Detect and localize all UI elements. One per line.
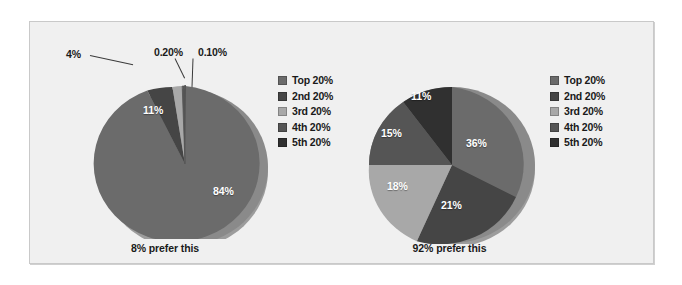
legend-swatch-5th20-left	[278, 138, 287, 147]
legend-label-4th20-right: 4th 20%	[564, 122, 602, 133]
legend-label-3rd20-right: 3rd 20%	[564, 106, 603, 117]
pie-chart-left: 4% 0.20% 0.10%	[30, 22, 342, 265]
legend-row-3rd20-right[interactable]: 3rd 20%	[550, 105, 605, 118]
pie-graphic-right	[356, 54, 556, 244]
legend-row-3rd20-left[interactable]: 3rd 20%	[278, 105, 333, 118]
pie-graphic-left	[68, 54, 303, 239]
legend-swatch-2nd20-left	[278, 92, 287, 101]
slice-label-4th20-right: 15%	[381, 127, 402, 139]
legend-label-top20-left: Top 20%	[292, 75, 333, 86]
legend-swatch-top20-right	[550, 76, 559, 85]
legend-row-4th20-left[interactable]: 4th 20%	[278, 121, 333, 134]
slice-label-top20-left: 84%	[213, 185, 234, 197]
pie-svg-right	[356, 54, 556, 244]
legend-row-top20-right[interactable]: Top 20%	[550, 74, 605, 87]
legend-label-5th20-right: 5th 20%	[564, 137, 602, 148]
legend-label-2nd20-left: 2nd 20%	[292, 91, 333, 102]
pie-svg-left	[68, 54, 303, 239]
legend-label-2nd20-right: 2nd 20%	[564, 91, 605, 102]
legend-swatch-2nd20-right	[550, 92, 559, 101]
legend-swatch-4th20-left	[278, 123, 287, 132]
legend-swatch-3rd20-left	[278, 107, 287, 116]
legend-row-5th20-left[interactable]: 5th 20%	[278, 136, 333, 149]
chart-panel: 4% 0.20% 0.10%	[29, 21, 654, 264]
legend-label-3rd20-left: 3rd 20%	[292, 106, 331, 117]
caption-left: 8% prefer this	[30, 242, 300, 254]
slice-label-2nd20-right: 21%	[441, 199, 462, 211]
legend-swatch-4th20-right	[550, 123, 559, 132]
legend-left: Top 20% 2nd 20% 3rd 20% 4th 20% 5th 20%	[278, 74, 333, 149]
slice-label-5th20-right: 11%	[411, 90, 431, 102]
legend-swatch-top20-left	[278, 76, 287, 85]
legend-swatch-5th20-right	[550, 138, 559, 147]
caption-right: 92% prefer this	[342, 242, 557, 254]
slice-label-top20-right: 36%	[466, 137, 487, 149]
legend-label-5th20-left: 5th 20%	[292, 137, 330, 148]
legend-row-2nd20-left[interactable]: 2nd 20%	[278, 90, 333, 103]
page-root: 4% 0.20% 0.10%	[0, 0, 682, 285]
legend-swatch-3rd20-right	[550, 107, 559, 116]
legend-row-2nd20-right[interactable]: 2nd 20%	[550, 90, 605, 103]
pie-chart-right: 36% 21% 18% 15% 11% Top 20% 2nd 20% 3rd …	[342, 22, 655, 265]
slice-label-2nd20-left: 11%	[143, 104, 163, 116]
legend-label-top20-right: Top 20%	[564, 75, 605, 86]
legend-row-4th20-right[interactable]: 4th 20%	[550, 121, 605, 134]
slice-label-3rd20-right: 18%	[387, 180, 408, 192]
legend-right: Top 20% 2nd 20% 3rd 20% 4th 20% 5th 20%	[550, 74, 605, 149]
legend-row-5th20-right[interactable]: 5th 20%	[550, 136, 605, 149]
legend-row-top20-left[interactable]: Top 20%	[278, 74, 333, 87]
legend-label-4th20-left: 4th 20%	[292, 122, 330, 133]
